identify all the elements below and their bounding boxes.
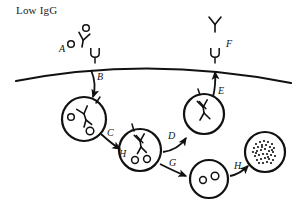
figure-canvas: Low IgG A [0, 0, 294, 212]
arrow-B: B [91, 70, 103, 97]
label-E: E [217, 85, 224, 96]
label-A: A [58, 43, 66, 54]
label-D: D [167, 130, 176, 141]
label-H-vesicle: H [118, 148, 127, 159]
label-F: F [225, 38, 233, 49]
arrow-G: G [160, 157, 186, 176]
fcrn-receptor-right [211, 48, 219, 64]
arrow-E: E [213, 72, 224, 97]
free-antibody-F: F [209, 17, 233, 49]
label-C: C [107, 127, 114, 138]
vesicle-4 [190, 160, 228, 198]
vesicle-5-lysosome [245, 132, 285, 172]
igg-recycling-diagram: A B [0, 0, 294, 212]
fcrn-receptor-left [91, 48, 99, 64]
cell-membrane [16, 68, 291, 83]
label-B: B [97, 71, 103, 82]
antibody-antigen-complex-A: A [58, 25, 90, 54]
vesicle-2: H [118, 124, 161, 171]
arrow-H: H [230, 160, 248, 176]
label-H-arrow: H [233, 160, 242, 171]
label-G: G [169, 157, 176, 168]
vesicle-1 [62, 97, 106, 141]
arrow-D: D [163, 130, 186, 152]
